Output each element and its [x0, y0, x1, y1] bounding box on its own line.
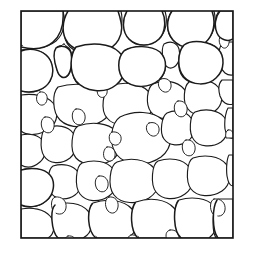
cell-outline: [37, 92, 48, 105]
cell-outline: [182, 140, 195, 156]
cell-outline: [210, 199, 225, 216]
cell-outline: [187, 156, 229, 196]
cell-wall-edge: [119, 47, 166, 87]
cell-outline: [226, 130, 234, 138]
cell-outline: [109, 132, 121, 145]
cell-outline: [152, 159, 192, 199]
cell-outline: [72, 109, 85, 125]
cell-outline: [174, 101, 187, 117]
cell-outline: [104, 147, 116, 161]
cell-wall-edge: [123, 11, 164, 45]
cell-wall-edge: [71, 44, 125, 91]
cell-outline: [190, 110, 228, 146]
cell-outline: [105, 197, 118, 213]
cell-outline: [95, 176, 108, 192]
cell-outline: [41, 117, 54, 133]
figure-root: [0, 0, 254, 253]
cellular-structure-diagram: [0, 0, 254, 253]
cell-wall-edge: [179, 42, 223, 84]
cell-outline: [110, 159, 159, 202]
